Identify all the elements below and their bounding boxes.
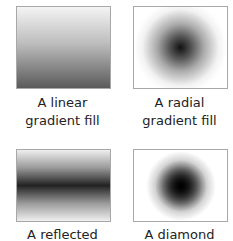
radial-gradient-caption: A radial gradient fill [121,94,233,130]
radial-gradient-swatch [133,6,228,89]
diamond-gradient-caption: A diamond [121,226,233,241]
linear-gradient-swatch [16,6,111,89]
caption-line: A linear [4,94,121,112]
caption-line: gradient fill [4,112,121,130]
diamond-gradient-swatch [133,149,228,222]
caption-line: A radial [121,94,233,112]
reflected-gradient-caption: A reflected [4,226,121,241]
reflected-gradient-swatch [16,149,111,222]
linear-gradient-caption: A linear gradient fill [4,94,121,130]
caption-line: A reflected [4,226,121,241]
caption-line: gradient fill [121,112,233,130]
diamond-shape-inner [144,149,218,222]
caption-line: A diamond [121,226,233,241]
